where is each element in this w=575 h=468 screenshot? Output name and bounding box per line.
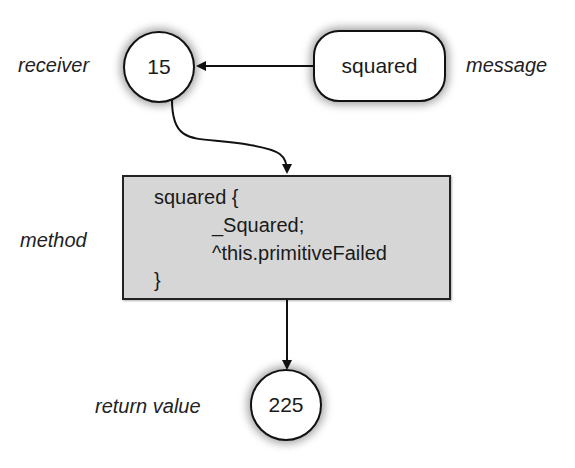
return-value-node: 225 [250, 369, 322, 441]
message-node: squared [313, 30, 446, 102]
method-label: method [20, 229, 87, 252]
receiver-to-method-arrow [172, 100, 287, 172]
receiver-label: receiver [18, 54, 89, 77]
code-line-1: squared { [154, 186, 239, 209]
return-value: 225 [268, 393, 303, 417]
code-line-2: _Squared; [212, 214, 304, 237]
code-line-4: } [154, 269, 161, 292]
message-label: message [466, 54, 547, 77]
message-send-diagram: receiver 15 squared message method squar… [0, 0, 575, 468]
receiver-value: 15 [147, 55, 170, 79]
method-box: squared { _Squared; ^this.primitiveFaile… [122, 175, 451, 300]
return-value-label: return value [95, 395, 201, 418]
code-line-3: ^this.primitiveFailed [212, 242, 387, 265]
receiver-node: 15 [123, 31, 195, 103]
message-value: squared [342, 54, 418, 78]
